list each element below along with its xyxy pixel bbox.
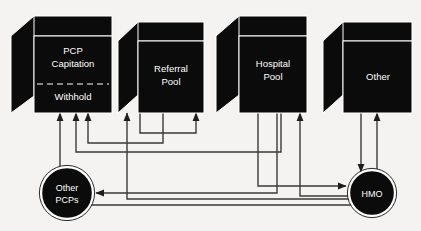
hospital-label-line1: Hospital [256,58,290,69]
diagram-canvas: PCP Capitation Withhold Referral Pool Ho… [0,0,421,231]
node-referral-pool[interactable]: Referral Pool [118,22,204,113]
pcp-label-withhold: Withhold [55,91,92,102]
other-pcps-circle [41,167,93,219]
hospital-label-line2: Pool [263,71,282,82]
pcp-label-line2: Capitation [52,58,95,69]
other-label: Other [366,71,390,82]
node-pcp-capitation[interactable]: PCP Capitation Withhold [11,16,112,113]
node-hmo[interactable]: HMO [347,168,396,217]
other-pcps-label-line2: PCPs [55,195,79,205]
other-pcps-label-line1: Other [56,183,79,193]
node-other-pcps[interactable]: Other PCPs [39,165,94,220]
referral-label-line2: Pool [161,76,180,87]
flow-diagram: PCP Capitation Withhold Referral Pool Ho… [0,0,421,231]
pcp-label-line1: PCP [63,45,83,56]
node-other[interactable]: Other [323,22,412,113]
hmo-label: HMO [362,189,383,199]
node-hospital-pool[interactable]: Hospital Pool [216,16,307,113]
referral-label-line1: Referral [154,63,188,74]
